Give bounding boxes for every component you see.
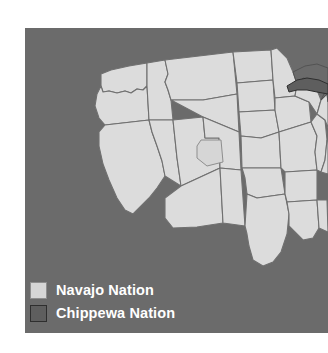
- state-oregon: [95, 86, 149, 125]
- map-legend: Navajo Nation Chippewa Nation: [30, 279, 290, 325]
- legend-item-navajo-nation: Navajo Nation: [30, 279, 290, 301]
- legend-swatch-chippewa-nation: [30, 305, 47, 322]
- state-oklahoma: [242, 168, 285, 198]
- state-north-dakota: [233, 50, 273, 83]
- state-mississippi: [317, 200, 328, 232]
- state-washington: [101, 63, 147, 93]
- legend-swatch-navajo-nation: [30, 282, 47, 299]
- state-texas: [245, 194, 289, 266]
- state-louisiana: [287, 200, 319, 240]
- state-south-dakota: [237, 80, 275, 112]
- legend-label-chippewa-nation: Chippewa Nation: [56, 306, 175, 321]
- legend-label-navajo-nation: Navajo Nation: [56, 283, 154, 298]
- state-new-mexico: [220, 168, 245, 226]
- state-montana: [165, 52, 237, 100]
- map-figure: Navajo Nation Chippewa Nation: [0, 0, 328, 353]
- map-panel: Navajo Nation Chippewa Nation: [25, 28, 328, 333]
- state-arkansas: [285, 170, 317, 202]
- legend-item-chippewa-nation: Chippewa Nation: [30, 302, 290, 324]
